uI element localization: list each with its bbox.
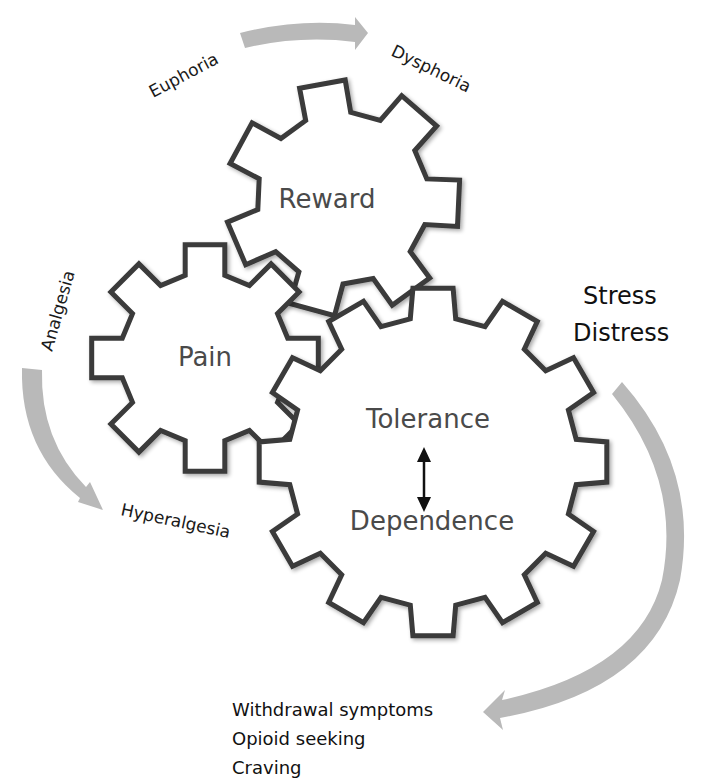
analgesia-to-hyperalgesia-arrow (22, 368, 103, 510)
reward-label: Reward (279, 184, 376, 214)
outcome-craving: Craving (232, 757, 302, 778)
hyperalgesia-label: Hyperalgesia (119, 499, 232, 542)
dysphoria-label: Dysphoria (388, 41, 474, 97)
tolerance-label: Tolerance (365, 404, 490, 434)
euphoria-label: Euphoria (145, 48, 221, 101)
distress-label: Distress (573, 319, 669, 347)
stress-label: Stress (583, 282, 657, 310)
outcome-withdrawal-symptoms: Withdrawal symptoms (232, 699, 433, 720)
analgesia-label: Analgesia (37, 268, 79, 353)
outcome-opioid-seeking: Opioid seeking (232, 728, 366, 749)
opioid-gears-diagram: Reward Pain Tolerance Dependence Euphori… (0, 0, 702, 784)
pain-label: Pain (178, 342, 232, 372)
euphoria-to-dysphoria-arrow (240, 17, 368, 50)
dependence-label: Dependence (350, 506, 514, 536)
